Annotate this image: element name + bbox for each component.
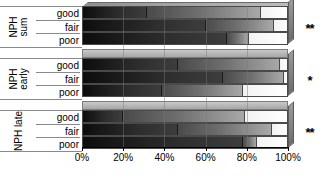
- bar-segment-3: [273, 20, 287, 31]
- stacked-bar-chart: NPH sum good fair poor NPH early good fa…: [0, 0, 325, 181]
- category-label-poor-1: poor: [36, 86, 80, 99]
- group-name-line-0-1: sum: [19, 10, 29, 44]
- category-label-good-1: good: [36, 59, 80, 73]
- y-axis-labels: NPH sum good fair poor NPH early good fa…: [0, 6, 82, 147]
- category-label-fair-0: fair: [36, 21, 80, 35]
- bar-segment-3: [271, 124, 287, 135]
- x-tick-label: 0%: [75, 152, 89, 163]
- bar-segment-1: [83, 59, 177, 70]
- category-label-fair-1: fair: [36, 73, 80, 87]
- category-labels-2: good fair poor: [36, 111, 80, 151]
- bar-row: [82, 84, 288, 97]
- bar-segment-3: [256, 137, 287, 148]
- bar-segment-3: [279, 59, 287, 70]
- bar-segment-1: [83, 124, 177, 135]
- bar-row: [82, 110, 288, 123]
- group-rotated-label-1: NPH early: [2, 59, 36, 99]
- bar-segment-3: [248, 33, 287, 44]
- bar-segment-2: [122, 111, 244, 122]
- bar-row: [82, 19, 288, 32]
- bar-segment-2: [161, 85, 243, 96]
- bar-group-2: [82, 110, 288, 149]
- group-name-line-2-0: NPH late: [14, 111, 24, 151]
- bar-segment-3: [242, 85, 287, 96]
- significance-marker-2: **: [294, 128, 325, 138]
- group-rotated-label-0: NPH sum: [2, 7, 36, 47]
- bar-segment-1: [83, 7, 146, 18]
- bar-group-0: [82, 6, 288, 45]
- x-tick: [288, 147, 289, 151]
- bar-row: [82, 32, 288, 45]
- x-tick-label: 40%: [154, 152, 174, 163]
- bar-segment-2: [242, 137, 256, 148]
- bar-group-1: [82, 58, 288, 97]
- group-floor-1: [82, 101, 288, 110]
- bar-segment-2: [177, 59, 279, 70]
- category-label-poor-2: poor: [36, 138, 80, 151]
- group-label-block-1: NPH early good fair poor: [0, 58, 82, 100]
- x-axis: 0%20%40%60%80%100%: [82, 147, 288, 157]
- category-label-poor-0: poor: [36, 34, 80, 47]
- x-tick-label: 60%: [196, 152, 216, 163]
- category-label-good-0: good: [36, 7, 80, 21]
- group-label-block-0: NPH sum good fair poor: [0, 6, 82, 48]
- bar-segment-1: [83, 111, 122, 122]
- group-name-line-1-1: early: [19, 62, 29, 96]
- significance-marker-1: *: [294, 76, 325, 86]
- plot-area: [82, 6, 288, 147]
- category-label-fair-2: fair: [36, 125, 80, 139]
- bar-segment-1: [83, 33, 226, 44]
- bar-segment-2: [146, 7, 260, 18]
- category-label-good-2: good: [36, 111, 80, 125]
- x-tick: [123, 147, 124, 151]
- bar-row: [82, 6, 288, 19]
- bar-segment-2: [205, 20, 272, 31]
- bar-segment-3: [283, 72, 287, 83]
- group-floor-0: [82, 49, 288, 58]
- bar-segment-2: [177, 124, 271, 135]
- bar-segment-2: [226, 33, 248, 44]
- group-label-block-2: NPH late good fair poor: [0, 110, 82, 152]
- x-axis-line: [82, 147, 288, 148]
- x-tick-label: 80%: [237, 152, 257, 163]
- category-labels-1: good fair poor: [36, 59, 80, 99]
- x-tick: [164, 147, 165, 151]
- bar-row: [82, 58, 288, 71]
- x-tick: [82, 147, 83, 151]
- bar-segment-1: [83, 137, 242, 148]
- significance-column: ** * **: [294, 6, 325, 147]
- bar-segment-2: [222, 72, 283, 83]
- x-tick-label: 100%: [275, 152, 301, 163]
- bar-row: [82, 123, 288, 136]
- significance-marker-0: **: [294, 24, 325, 34]
- bar-segment-3: [244, 111, 287, 122]
- bar-segment-3: [260, 7, 287, 18]
- x-tick-label: 20%: [113, 152, 133, 163]
- category-labels-0: good fair poor: [36, 7, 80, 47]
- group-rotated-label-2: NPH late: [2, 111, 36, 151]
- bar-segment-1: [83, 20, 205, 31]
- bar-segment-1: [83, 85, 161, 96]
- bar-segment-1: [83, 72, 222, 83]
- x-tick: [247, 147, 248, 151]
- x-tick: [206, 147, 207, 151]
- bar-row: [82, 71, 288, 84]
